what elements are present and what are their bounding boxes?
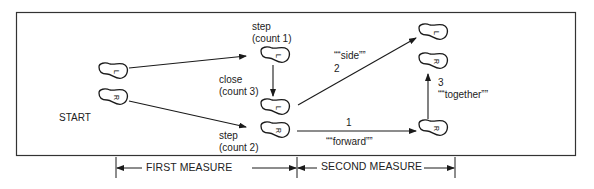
- foot-step2-right-icon: R: [261, 122, 289, 137]
- first-measure-label: FIRST MEASURE: [146, 162, 232, 173]
- svg-text:L: L: [113, 70, 120, 74]
- foot-start-right-icon: R: [99, 89, 127, 104]
- step-count2-label-line1: step: [219, 130, 238, 141]
- start-label: START: [59, 112, 91, 123]
- side-count-label: 2: [334, 63, 340, 74]
- together-label: ““together””: [438, 89, 488, 100]
- step-count2-label-line2: (count 2): [219, 142, 258, 153]
- step-count1-label-line2: (count 1): [252, 33, 291, 44]
- forward-label: ““forward””: [326, 136, 373, 147]
- svg-text:L: L: [275, 54, 282, 58]
- foot-side-left-icon: L: [419, 24, 447, 39]
- diagram-frame: [17, 13, 576, 156]
- foot-step1-left-icon: L: [261, 47, 289, 62]
- arrow-start-to-step1: [129, 56, 246, 68]
- side-label: ““side””: [334, 50, 366, 61]
- arrow-close-to-side: [298, 38, 416, 105]
- close-count3-label-line1: close: [219, 74, 242, 85]
- foot-forward-right-icon: R: [419, 120, 447, 135]
- arrow-start-to-step2: [129, 101, 246, 127]
- foot-start-left-icon: L: [99, 63, 127, 78]
- step-count1-label-line1: step: [252, 21, 271, 32]
- svg-text:R: R: [113, 95, 120, 100]
- forward-count-label: 1: [346, 117, 352, 128]
- svg-text:R: R: [433, 59, 440, 64]
- close-count3-label-line2: (count 3): [219, 86, 258, 97]
- svg-text:L: L: [433, 31, 440, 35]
- diagram-canvas: L R L L R L R R: [0, 0, 594, 189]
- foot-together-right-icon: R: [419, 53, 447, 68]
- second-measure-label: SECOND MEASURE: [321, 161, 422, 172]
- svg-text:L: L: [275, 106, 282, 110]
- svg-text:R: R: [433, 126, 440, 131]
- together-count-label: 3: [438, 77, 444, 88]
- svg-text:R: R: [275, 128, 282, 133]
- foot-close3-left-icon: L: [261, 99, 289, 114]
